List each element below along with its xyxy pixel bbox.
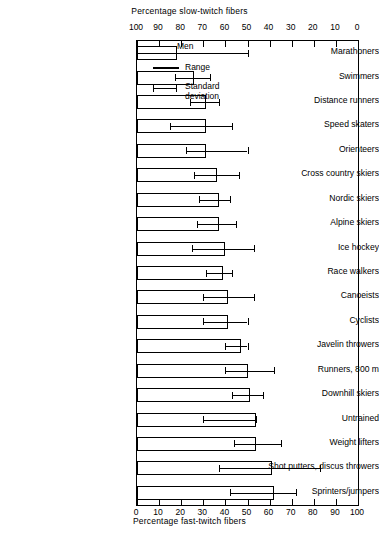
sd-cap-left bbox=[234, 440, 235, 447]
tick-mark bbox=[203, 499, 204, 505]
sd-cap-left bbox=[137, 50, 138, 57]
sd-line bbox=[206, 273, 233, 274]
sd-cap-right bbox=[281, 440, 282, 447]
tick-mark bbox=[203, 41, 204, 47]
sd-cap-right bbox=[248, 343, 249, 350]
sd-cap-right bbox=[232, 123, 233, 130]
sd-cap-left bbox=[175, 74, 176, 81]
sd-cap-left bbox=[219, 465, 220, 472]
sd-cap-left bbox=[225, 367, 226, 374]
sd-line bbox=[192, 249, 254, 250]
legend-range-marker bbox=[153, 67, 179, 69]
tick-mark bbox=[336, 41, 337, 47]
sd-line bbox=[194, 175, 238, 176]
sd-cap-left bbox=[203, 416, 204, 423]
sd-cap-left bbox=[232, 392, 233, 399]
sd-cap-right bbox=[232, 270, 233, 277]
sd-cap-left bbox=[170, 123, 171, 130]
sd-cap-left bbox=[197, 221, 198, 228]
sd-line bbox=[170, 126, 232, 127]
sd-cap-right bbox=[236, 221, 237, 228]
tick-mark bbox=[181, 499, 182, 505]
sd-line bbox=[190, 102, 219, 103]
tick-mark bbox=[358, 499, 359, 505]
sd-line bbox=[203, 297, 254, 298]
tick-mark bbox=[314, 41, 315, 47]
sd-line bbox=[197, 224, 237, 225]
plot-area: Men Range Standarddeviation bbox=[136, 40, 359, 506]
sd-line bbox=[219, 468, 321, 469]
sd-cap-left bbox=[194, 172, 195, 179]
sd-cap-left bbox=[230, 489, 231, 496]
sd-cap-left bbox=[186, 147, 187, 154]
sd-cap-left bbox=[192, 245, 193, 252]
sd-cap-left bbox=[203, 294, 204, 301]
tick-mark bbox=[159, 499, 160, 505]
sd-cap-right bbox=[263, 392, 264, 399]
legend-sd-marker bbox=[153, 88, 177, 89]
tick-mark bbox=[270, 41, 271, 47]
tick-mark bbox=[248, 41, 249, 47]
tick-mark bbox=[336, 499, 337, 505]
tick-mark bbox=[225, 41, 226, 47]
sd-line bbox=[203, 420, 256, 421]
sd-line bbox=[186, 151, 248, 152]
sd-cap-right bbox=[248, 318, 249, 325]
sd-line bbox=[199, 200, 230, 201]
tick-mark bbox=[314, 499, 315, 505]
sd-line bbox=[234, 444, 280, 445]
sd-cap-right bbox=[296, 489, 297, 496]
tick-mark bbox=[292, 499, 293, 505]
sd-cap-right bbox=[248, 147, 249, 154]
sd-cap-right bbox=[248, 50, 249, 57]
sd-cap-left bbox=[206, 270, 207, 277]
sd-line bbox=[225, 346, 247, 347]
sd-line bbox=[175, 78, 210, 79]
tick-mark bbox=[292, 41, 293, 47]
sd-cap-right bbox=[320, 465, 321, 472]
tick-mark bbox=[248, 499, 249, 505]
tick-mark bbox=[137, 499, 138, 505]
sd-cap-right bbox=[254, 245, 255, 252]
sd-cap-right bbox=[274, 367, 275, 374]
sd-cap-right bbox=[256, 416, 257, 423]
sd-cap-right bbox=[254, 294, 255, 301]
sd-cap-right bbox=[239, 172, 240, 179]
tick-mark bbox=[270, 499, 271, 505]
top-tick-label: 0 bbox=[342, 22, 372, 32]
chart-figure: Percentage slow-twitch fibers 1009080706… bbox=[0, 0, 379, 534]
legend-title: Men bbox=[177, 41, 194, 51]
legend-sd-cap-right bbox=[176, 84, 177, 92]
sd-cap-left bbox=[199, 196, 200, 203]
sd-line bbox=[203, 322, 247, 323]
sd-cap-right bbox=[230, 196, 231, 203]
sd-line bbox=[232, 395, 263, 396]
bottom-axis-title: Percentage fast-twitch fibers bbox=[0, 516, 379, 526]
sd-line bbox=[230, 493, 296, 494]
sd-cap-left bbox=[225, 343, 226, 350]
sd-line bbox=[225, 371, 274, 372]
top-axis-title: Percentage slow-twitch fibers bbox=[0, 6, 379, 16]
tick-mark bbox=[358, 41, 359, 47]
legend-range-label: Range bbox=[185, 62, 210, 72]
sd-line bbox=[137, 53, 248, 54]
sd-cap-left bbox=[203, 318, 204, 325]
legend-sd-label: Standarddeviation bbox=[185, 81, 220, 101]
tick-mark bbox=[225, 499, 226, 505]
